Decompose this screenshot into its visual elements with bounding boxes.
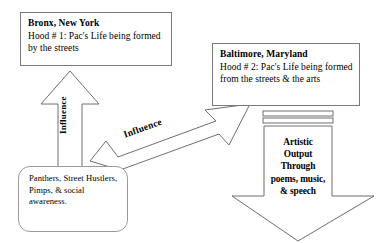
artistic-output-text: Artistic Output Through poems, music, & …: [265, 136, 331, 197]
influence-diagonal-arrow-shape: [90, 104, 250, 170]
artistic-output-line-4: poems, music,: [265, 173, 331, 185]
node-baltimore-title: Baltimore, Maryland: [220, 48, 353, 61]
node-bronx-title: Bronx, New York: [28, 17, 165, 30]
output-stripe-bottom: [263, 118, 333, 123]
artistic-output-line-1: Artistic: [265, 136, 331, 148]
influence-up-arrow-label: Influence: [58, 110, 68, 134]
node-origins-body: Panthers, Street Hustlers, Pimps, & soci…: [29, 173, 121, 208]
node-origins-influences: Panthers, Street Hustlers, Pimps, & soci…: [18, 166, 128, 232]
output-stripe-top: [263, 111, 333, 116]
artistic-output-line-5: & speech: [265, 185, 331, 197]
diagram-canvas: Bronx, New York Hood # 1: Pac's Life bei…: [0, 0, 381, 243]
node-bronx-body: Hood # 1: Pac's Life being formed by the…: [28, 30, 165, 55]
influence-diagonal-arrow-label: Influence: [122, 117, 163, 140]
node-baltimore-maryland: Baltimore, Maryland Hood # 2: Pac's Life…: [212, 43, 360, 106]
influence-up-arrow-shape: [41, 71, 99, 167]
node-bronx-new-york: Bronx, New York Hood # 1: Pac's Life bei…: [20, 12, 172, 66]
node-baltimore-body: Hood # 2: Pac's Life being formed from t…: [220, 61, 353, 86]
artistic-output-line-3: Through: [265, 160, 331, 172]
artistic-output-line-2: Output: [265, 148, 331, 160]
